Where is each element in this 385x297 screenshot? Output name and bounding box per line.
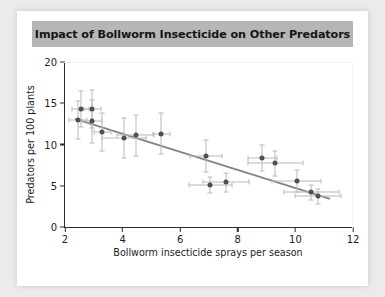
plot-area: 0510152024681012: [64, 62, 353, 228]
data-point: [294, 178, 299, 183]
error-bar-cap: [170, 131, 171, 136]
x-axis-tick-label: 4: [119, 232, 125, 245]
chart-title-bar: Impact of Bollworm Insecticide on Other …: [32, 21, 353, 47]
error-bar-cap: [83, 107, 84, 112]
y-axis-tick: 20: [44, 57, 65, 68]
error-bar-cap: [224, 191, 229, 192]
x-axis-tick: 2: [62, 227, 68, 245]
y-axis-tick-mark: [60, 103, 65, 104]
error-bar-cap: [75, 138, 80, 139]
error-bar-cap: [159, 154, 164, 155]
data-point: [100, 130, 105, 135]
error-bar-cap: [295, 194, 296, 199]
error-bar-cap: [247, 155, 248, 160]
error-bar-cap: [188, 182, 189, 187]
y-axis-tick-label: 10: [44, 139, 60, 150]
x-axis-tick-label: 8: [235, 232, 241, 245]
data-point: [75, 117, 80, 122]
error-bar-cap: [111, 130, 112, 135]
error-bar-cap: [122, 118, 127, 119]
error-bar-cap: [100, 113, 105, 114]
error-bar-cap: [247, 161, 248, 166]
data-point: [273, 161, 278, 166]
chart-figure: Impact of Bollworm Insecticide on Other …: [17, 11, 368, 286]
y-axis-tick-mark: [60, 185, 65, 186]
error-bar-cap: [78, 90, 83, 91]
error-bar-cap: [72, 107, 73, 112]
y-axis-tick-label: 5: [51, 180, 60, 191]
error-bar-cap: [302, 161, 303, 166]
error-bar-cap: [338, 190, 339, 195]
error-bar-cap: [260, 170, 265, 171]
x-axis-tick-label: 6: [177, 232, 183, 245]
page-title: Impact of Bollworm Insecticide on Other …: [35, 28, 350, 41]
data-point: [133, 133, 138, 138]
error-bar-cap: [273, 175, 278, 176]
y-axis-tick: 15: [44, 98, 65, 109]
x-axis-tick: 6: [177, 227, 183, 245]
error-bar-cap: [208, 176, 213, 177]
x-axis-tick: 12: [347, 227, 360, 245]
error-bar-cap: [221, 154, 222, 159]
error-bar-cap: [133, 114, 138, 115]
y-axis-tick-label: 15: [44, 98, 60, 109]
x-axis-tick: 10: [289, 227, 302, 245]
y-axis-label-text: Predators per 100 plants: [25, 85, 36, 204]
error-bar-cap: [272, 178, 273, 183]
error-bar-cap: [309, 184, 314, 185]
error-bar-cap: [190, 154, 191, 159]
data-point: [78, 107, 83, 112]
error-bar-cap: [93, 130, 94, 135]
x-axis-tick-label: 10: [289, 232, 302, 245]
data-point: [122, 135, 127, 140]
data-point: [204, 154, 209, 159]
data-point: [224, 180, 229, 185]
error-bar-cap: [145, 135, 146, 140]
error-bar-cap: [122, 157, 127, 158]
data-point: [90, 107, 95, 112]
error-bar-cap: [260, 144, 265, 145]
error-bar-cap: [100, 151, 105, 152]
y-axis-tick: 5: [51, 180, 65, 191]
data-point: [159, 131, 164, 136]
data-point: [309, 190, 314, 195]
error-bar-cap: [321, 178, 322, 183]
error-bar-cap: [133, 156, 138, 157]
error-bar-cap: [341, 194, 342, 199]
error-bar-cap: [224, 173, 229, 174]
data-point: [208, 182, 213, 187]
y-axis-tick-label: 20: [44, 57, 60, 68]
x-axis-label: Bollworm insecticide sprays per season: [64, 247, 352, 258]
error-bar-cap: [159, 113, 164, 114]
error-bar-cap: [249, 180, 250, 185]
error-bar-cap: [116, 133, 117, 138]
error-bar-cap: [102, 135, 103, 140]
x-axis-tick-label: 12: [347, 232, 360, 245]
y-axis-label: Predators per 100 plants: [23, 62, 37, 227]
trend-line-segment: [75, 119, 330, 199]
error-bar-cap: [101, 107, 102, 112]
error-bar-cap: [276, 155, 277, 160]
error-bar-cap: [90, 142, 95, 143]
error-bar-cap: [294, 170, 299, 171]
y-axis-tick-label: 0: [51, 222, 60, 233]
error-bar-cap: [204, 140, 209, 141]
data-point: [316, 194, 321, 199]
error-bar-cap: [309, 199, 314, 200]
y-axis-tick-mark: [60, 144, 65, 145]
data-point: [90, 119, 95, 124]
x-axis-tick-label: 2: [62, 232, 68, 245]
trendline: [65, 62, 353, 227]
error-bar-cap: [204, 171, 209, 172]
y-axis-tick: 10: [44, 139, 65, 150]
data-point: [260, 155, 265, 160]
x-axis-tick: 8: [235, 227, 241, 245]
error-bar-cap: [90, 99, 95, 100]
error-bar-cap: [316, 203, 321, 204]
error-bar-cap: [316, 189, 321, 190]
y-axis-tick-mark: [60, 61, 65, 62]
error-bar-cap: [69, 117, 70, 122]
error-bar-cap: [203, 180, 204, 185]
error-bar-cap: [232, 182, 233, 187]
x-axis-tick: 4: [119, 227, 125, 245]
